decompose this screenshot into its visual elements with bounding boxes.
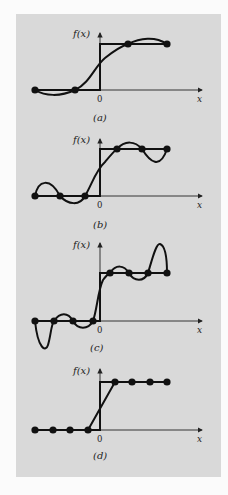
panel-label: (d) <box>93 450 107 461</box>
y-axis-label: f(x) <box>72 239 90 250</box>
y-axis-label: f(x) <box>72 365 90 376</box>
origin-label: 0 <box>97 325 102 335</box>
chart-d: f(x) 0 x (d) <box>31 365 202 461</box>
step-function <box>35 273 167 321</box>
step-function <box>35 44 167 90</box>
origin-label: 0 <box>97 434 102 444</box>
x-axis-label: x <box>197 325 202 335</box>
panel-label: (c) <box>90 342 104 353</box>
chart-a: f(x) 0 x (a) <box>31 28 202 123</box>
x-axis-label: x <box>197 94 202 104</box>
panel-label: (b) <box>93 219 107 230</box>
panel-label: (a) <box>93 112 107 123</box>
figure-svg: f(x) 0 x (a) f(x) 0 x (b) f(x) 0 x (c) <box>0 0 228 495</box>
x-axis-label: x <box>197 434 202 444</box>
x-axis-label: x <box>197 200 202 210</box>
y-axis-label: f(x) <box>72 134 90 145</box>
origin-label: 0 <box>97 200 102 210</box>
origin-label: 0 <box>97 94 102 104</box>
y-axis-label: f(x) <box>72 28 90 39</box>
chart-c: f(x) 0 x (c) <box>31 239 202 353</box>
chart-b: f(x) 0 x (b) <box>31 134 202 230</box>
